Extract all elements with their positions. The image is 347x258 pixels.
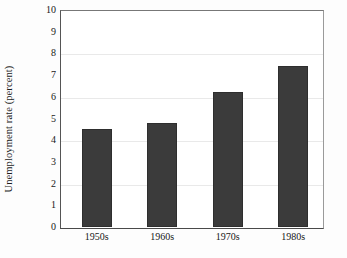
y-tick-label: 8 — [34, 48, 56, 58]
x-tick-label: 1960s — [150, 231, 174, 243]
gridline — [61, 98, 323, 99]
y-tick-label: 7 — [34, 70, 56, 80]
bar-chart: Unemployment rate (percent) 012345678910… — [0, 0, 347, 258]
x-tick-label: 1970s — [216, 231, 240, 243]
gridline — [61, 141, 323, 142]
y-tick-label: 0 — [34, 222, 56, 232]
y-axis-title: Unemployment rate (percent) — [0, 0, 16, 258]
y-tick-label: 3 — [34, 157, 56, 167]
y-tick-label: 5 — [34, 114, 56, 124]
y-tick-label: 6 — [34, 92, 56, 102]
y-tick-label: 9 — [34, 27, 56, 37]
gridline — [61, 54, 323, 55]
x-tick-label: 1950s — [85, 231, 109, 243]
x-tick-label: 1980s — [281, 231, 305, 243]
y-axis-tick-labels: 012345678910 — [30, 10, 56, 227]
x-axis-tick-labels: 1950s1960s1970s1980s — [60, 231, 322, 247]
gridline — [61, 185, 323, 186]
y-tick-label: 10 — [34, 5, 56, 15]
y-tick-label: 2 — [34, 179, 56, 189]
y-tick-label: 4 — [34, 135, 56, 145]
plot-area — [60, 10, 324, 229]
y-tick-label: 1 — [34, 200, 56, 210]
